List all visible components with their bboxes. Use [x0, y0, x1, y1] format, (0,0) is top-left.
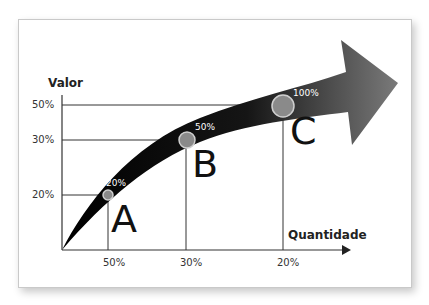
x-tick-label: 50%: [103, 257, 125, 268]
point-b-letter: B: [192, 145, 218, 183]
x-tick-label: 30%: [180, 257, 202, 268]
point-c-value: 100%: [293, 88, 319, 98]
y-tick-label: 30%: [32, 134, 54, 145]
y-tick-label: 50%: [32, 99, 54, 110]
point-a-letter: A: [111, 200, 137, 238]
y-axis-title: Valor: [48, 76, 83, 90]
point-b-value: 50%: [195, 122, 215, 132]
point-a-value: 20%: [106, 178, 126, 188]
y-tick-label: 20%: [32, 189, 54, 200]
point-c-letter: C: [290, 112, 317, 150]
x-tick-label: 20%: [277, 257, 299, 268]
x-axis-title: Quantidade: [288, 228, 367, 242]
